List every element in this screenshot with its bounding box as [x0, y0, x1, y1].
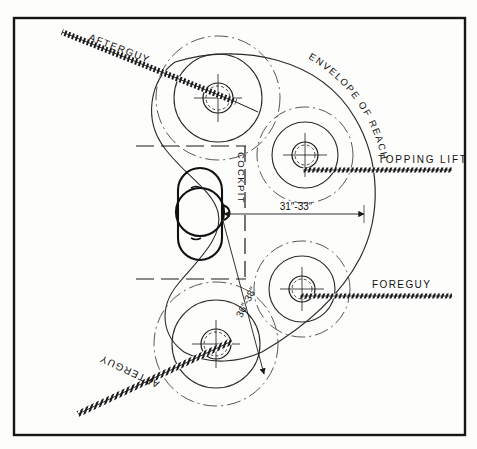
deck-plan-svg: ENVELOPE OF REACH [0, 0, 477, 449]
foreguy-label: FOREGUY [372, 279, 431, 290]
cockpit-label: COCKPIT [236, 152, 247, 204]
topping-lift-label: TOPPING LIFT [378, 154, 468, 165]
dimension-reach-upper-label: 31″-33″ [280, 201, 313, 212]
drawing-canvas: ENVELOPE OF REACH [0, 0, 477, 449]
